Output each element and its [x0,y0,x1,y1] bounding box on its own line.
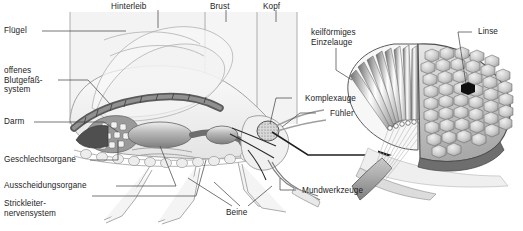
label-ausscheidungsorgane: Ausscheidungsorgane [4,181,87,191]
compound-eye-cutaway [348,44,513,200]
label-beine: Beine [226,208,247,218]
legs [104,162,286,224]
label-darm: Darm [4,117,24,127]
diagram-artwork [0,0,523,231]
label-einzelauge: keilförmiges Einzelauge [311,28,356,47]
label-strickleiternervensystem: Strickleiter- nervensystem [4,199,56,218]
region-label-kopf: Kopf [263,2,280,12]
label-mundwerkzeuge: Mundwerkzeuge [302,186,363,196]
label-geschlechtsorgane: Geschlechtsorgane [4,155,76,165]
label-linse: Linse [478,27,498,37]
compound-eye [257,121,279,141]
insect-anatomy-figure: Hinterleib Brust Kopf Flügel offenes Blu… [0,0,523,231]
label-fluegel: Flügel [4,26,27,36]
region-label-brust: Brust [210,2,230,12]
label-blutgefaesssystem: offenes Blutgefäß- system [4,66,43,95]
region-label-hinterleib: Hinterleib [111,2,146,12]
label-komplexauge: Komplexauge [305,94,356,104]
label-fuehler: Fühler [330,109,354,119]
